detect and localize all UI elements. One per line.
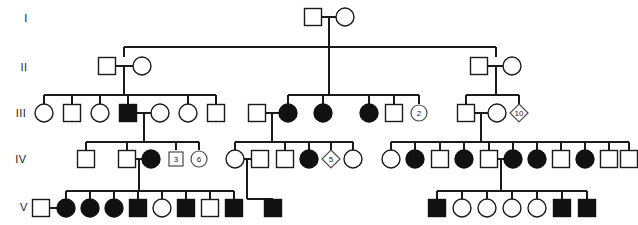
symbol-square-V-17[interactable]: [579, 200, 596, 217]
symbol-circle-III-10[interactable]: [314, 104, 332, 122]
individual-II-2[interactable]: [133, 57, 151, 75]
individual-IV-21[interactable]: [601, 151, 618, 168]
symbol-square-IV-2[interactable]: [119, 151, 136, 168]
individual-II-4[interactable]: [503, 57, 521, 75]
symbol-circle-I-2[interactable]: [336, 8, 354, 26]
individual-V-14[interactable]: [503, 199, 521, 217]
individual-III-11[interactable]: [360, 104, 378, 122]
symbol-square-V-9[interactable]: [226, 200, 243, 217]
symbol-circle-IV-6[interactable]: [226, 150, 244, 168]
symbol-circle-IV-20[interactable]: [576, 150, 594, 168]
symbol-square-V-1[interactable]: [33, 200, 50, 217]
individual-V-8[interactable]: [202, 200, 219, 217]
individual-V-15[interactable]: [528, 199, 546, 217]
symbol-circle-III-5[interactable]: [151, 104, 169, 122]
symbol-square-II-1[interactable]: [99, 58, 116, 75]
individual-IV-6[interactable]: [226, 150, 244, 168]
symbol-circle-IV-17[interactable]: [504, 150, 522, 168]
individual-V-13[interactable]: [478, 199, 496, 217]
individual-V-2[interactable]: [57, 199, 75, 217]
individual-III-13[interactable]: 2: [411, 105, 427, 121]
symbol-circle-III-1[interactable]: [35, 104, 53, 122]
symbol-square-III-14[interactable]: [458, 105, 475, 122]
symbol-circle-III-3[interactable]: [91, 104, 109, 122]
individual-IV-19[interactable]: [553, 151, 570, 168]
symbol-circle-III-15[interactable]: [488, 104, 506, 122]
symbol-square-IV-14[interactable]: [432, 151, 449, 168]
individual-IV-13[interactable]: [406, 150, 424, 168]
symbol-square-I-1[interactable]: [305, 9, 322, 26]
individual-V-3[interactable]: [81, 199, 99, 217]
symbol-square-V-8[interactable]: [202, 200, 219, 217]
individual-I-2[interactable]: [336, 8, 354, 26]
symbol-circle-V-14[interactable]: [503, 199, 521, 217]
individual-III-8[interactable]: [249, 105, 266, 122]
individual-V-5[interactable]: [130, 200, 147, 217]
symbol-circle-IV-3[interactable]: [142, 150, 160, 168]
individual-I-1[interactable]: [305, 9, 322, 26]
symbol-circle-IV-12[interactable]: [382, 150, 400, 168]
individual-IV-11[interactable]: [344, 150, 362, 168]
individual-IV-15[interactable]: [455, 150, 473, 168]
symbol-circle-V-2[interactable]: [57, 199, 75, 217]
individual-III-6[interactable]: [179, 104, 197, 122]
symbol-square-V-5[interactable]: [130, 200, 147, 217]
individual-IV-17[interactable]: [504, 150, 522, 168]
individual-V-12[interactable]: [453, 199, 471, 217]
individual-III-3[interactable]: [91, 104, 109, 122]
individual-III-15[interactable]: [488, 104, 506, 122]
individual-V-10[interactable]: [265, 200, 282, 217]
individual-III-1[interactable]: [35, 104, 53, 122]
symbol-circle-V-4[interactable]: [105, 199, 123, 217]
individual-III-2[interactable]: [64, 105, 81, 122]
symbol-circle-V-15[interactable]: [528, 199, 546, 217]
symbol-square-III-4[interactable]: [120, 105, 137, 122]
individual-III-16[interactable]: 10: [510, 104, 528, 122]
individual-III-10[interactable]: [314, 104, 332, 122]
symbol-square-III-8[interactable]: [249, 105, 266, 122]
symbol-circle-III-6[interactable]: [179, 104, 197, 122]
symbol-circle-IV-15[interactable]: [455, 150, 473, 168]
individual-IV-10[interactable]: 5: [322, 150, 340, 168]
individual-IV-20[interactable]: [576, 150, 594, 168]
symbol-square-IV-19[interactable]: [553, 151, 570, 168]
symbol-circle-IV-18[interactable]: [528, 150, 546, 168]
individual-IV-7[interactable]: [252, 151, 269, 168]
symbol-square-IV-8[interactable]: [277, 151, 294, 168]
symbol-circle-IV-13[interactable]: [406, 150, 424, 168]
symbol-circle-V-13[interactable]: [478, 199, 496, 217]
individual-IV-14[interactable]: [432, 151, 449, 168]
individual-V-9[interactable]: [226, 200, 243, 217]
individual-III-4[interactable]: [120, 105, 137, 122]
symbol-square-IV-7[interactable]: [252, 151, 269, 168]
individual-III-9[interactable]: [279, 104, 297, 122]
individual-V-1[interactable]: [33, 200, 50, 217]
individual-V-7[interactable]: [178, 200, 195, 217]
symbol-square-III-7[interactable]: [208, 105, 225, 122]
symbol-circle-III-11[interactable]: [360, 104, 378, 122]
individual-V-6[interactable]: [153, 199, 171, 217]
individual-IV-16[interactable]: [481, 151, 498, 168]
symbol-circle-IV-9[interactable]: [300, 150, 318, 168]
symbol-square-V-11[interactable]: [429, 200, 446, 217]
symbol-square-IV-22[interactable]: [621, 151, 638, 168]
individual-V-4[interactable]: [105, 199, 123, 217]
individual-III-5[interactable]: [151, 104, 169, 122]
symbol-square-V-16[interactable]: [554, 200, 571, 217]
individual-IV-3[interactable]: [142, 150, 160, 168]
individual-V-17[interactable]: [579, 200, 596, 217]
individual-IV-8[interactable]: [277, 151, 294, 168]
individual-III-14[interactable]: [458, 105, 475, 122]
symbol-circle-V-12[interactable]: [453, 199, 471, 217]
individual-IV-2[interactable]: [119, 151, 136, 168]
symbol-circle-V-3[interactable]: [81, 199, 99, 217]
symbol-circle-II-4[interactable]: [503, 57, 521, 75]
individual-IV-5[interactable]: 6: [191, 151, 207, 167]
individual-IV-9[interactable]: [300, 150, 318, 168]
individual-IV-1[interactable]: [78, 151, 95, 168]
individual-II-1[interactable]: [99, 58, 116, 75]
symbol-circle-V-6[interactable]: [153, 199, 171, 217]
symbol-square-V-7[interactable]: [178, 200, 195, 217]
symbol-square-III-2[interactable]: [64, 105, 81, 122]
individual-II-3[interactable]: [471, 58, 488, 75]
